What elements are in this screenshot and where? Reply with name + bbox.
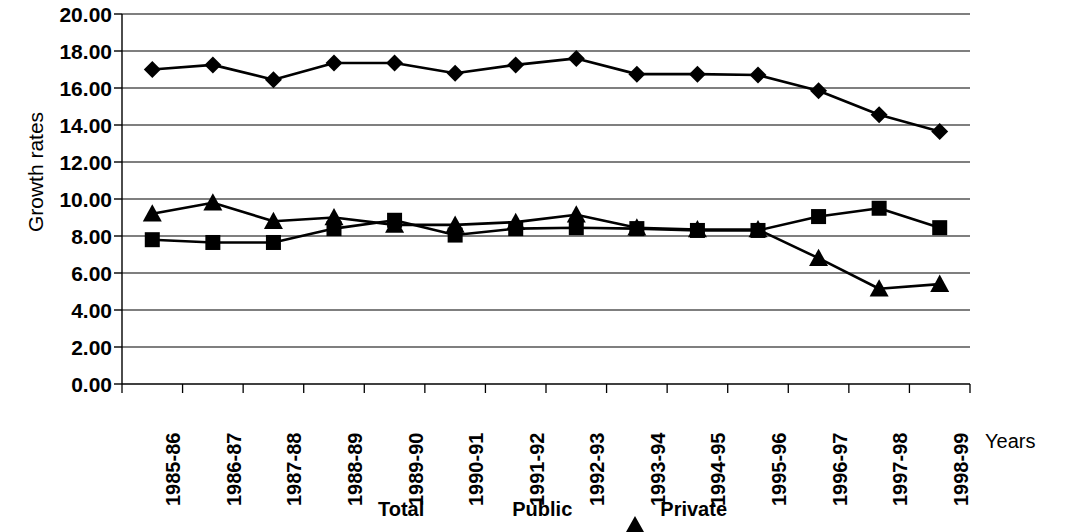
legend-label: Public [512, 498, 572, 521]
legend-entry-private[interactable]: Private [624, 498, 727, 521]
triangle-data-point [809, 249, 828, 266]
legend-label: Total [378, 498, 424, 521]
x-tick-label-text: 1989-90 [405, 396, 428, 506]
x-tick-label: 1993-94 [647, 396, 670, 506]
y-tick-label: 2.00 [0, 337, 112, 358]
legend-label: Private [660, 498, 727, 521]
x-tick-label: 1991-92 [526, 396, 549, 506]
diamond-data-point [689, 66, 706, 83]
y-tick-label: 0.00 [0, 374, 112, 395]
diamond-data-point [507, 56, 524, 73]
y-axis-tick-labels: 20.0018.0016.0014.0012.0010.008.006.004.… [0, 0, 112, 400]
square-marker-icon [476, 499, 498, 521]
y-tick-label: 18.00 [0, 41, 112, 62]
x-tick-label: 1987-88 [283, 396, 306, 506]
diamond-data-point [265, 71, 282, 88]
x-tick-label: 1990-91 [465, 396, 488, 506]
diamond-data-point [144, 61, 161, 78]
triangle-marker-icon [624, 499, 646, 521]
series-private [143, 193, 949, 296]
x-tick-label-text: 1992-93 [586, 396, 609, 506]
x-tick-label-text: 1994-95 [707, 396, 730, 506]
x-axis-title: Years [985, 430, 1035, 453]
y-tick-label: 20.00 [0, 4, 112, 25]
plot-svg [122, 14, 970, 384]
x-tick-label: 1997-98 [889, 396, 912, 506]
diamond-data-point [204, 56, 221, 73]
x-tick-label-text: 1988-89 [344, 396, 367, 506]
x-axis-tick-labels: 1985-861986-871987-881988-891989-901990-… [122, 384, 970, 504]
x-tick-label: 1996-97 [829, 396, 852, 506]
triangle-glyph [626, 499, 644, 532]
x-tick-label-text: 1996-97 [829, 396, 852, 506]
diamond-data-point [628, 66, 645, 83]
x-tick-label-text: 1991-92 [526, 396, 549, 506]
x-tick-label-text: 1995-96 [768, 396, 791, 506]
diamond-data-point [810, 82, 827, 99]
legend-entry-total[interactable]: Total [342, 498, 424, 521]
diamond-data-point [871, 106, 888, 123]
y-tick-label: 14.00 [0, 115, 112, 136]
x-tick-label: 1985-86 [162, 396, 185, 506]
x-tick-label-text: 1998-99 [950, 396, 973, 506]
x-tick-label: 1995-96 [768, 396, 791, 506]
square-data-point [811, 209, 826, 224]
x-tick-label-text: 1993-94 [647, 396, 670, 506]
x-tick-label: 1986-87 [223, 396, 246, 506]
diamond-marker-icon [342, 499, 364, 521]
triangle-data-point [930, 275, 949, 292]
triangle-data-point [203, 193, 222, 210]
x-tick-label: 1992-93 [586, 396, 609, 506]
y-tick-label: 10.00 [0, 189, 112, 210]
square-data-point [266, 235, 281, 250]
y-tick-label: 16.00 [0, 78, 112, 99]
y-tick-label: 6.00 [0, 263, 112, 284]
x-tick-label: 1989-90 [405, 396, 428, 506]
x-tick-label: 1988-89 [344, 396, 367, 506]
y-tick-label: 12.00 [0, 152, 112, 173]
diamond-data-point [447, 65, 464, 82]
legend-entry-public[interactable]: Public [476, 498, 572, 521]
square-data-point [145, 232, 160, 247]
series-total [144, 50, 948, 140]
chart-page: Growth rates 20.0018.0016.0014.0012.0010… [0, 0, 1069, 532]
x-tick-label-text: 1986-87 [223, 396, 246, 506]
series-public [145, 201, 947, 250]
triangle-data-point [567, 205, 586, 222]
diamond-data-point [326, 55, 343, 72]
square-data-point [205, 235, 220, 250]
y-tick-label: 4.00 [0, 300, 112, 321]
x-tick-label: 1994-95 [707, 396, 730, 506]
plot-area [122, 14, 970, 384]
x-tick-label-text: 1985-86 [162, 396, 185, 506]
x-tick-label-text: 1990-91 [465, 396, 488, 506]
diamond-data-point [750, 67, 767, 84]
diamond-data-point [386, 55, 403, 72]
diamond-data-point [568, 50, 585, 67]
chart-legend: TotalPublicPrivate [0, 498, 1069, 521]
x-tick-label-text: 1987-88 [283, 396, 306, 506]
y-tick-label: 8.00 [0, 226, 112, 247]
x-tick-label: 1998-99 [950, 396, 973, 506]
square-data-point [872, 201, 887, 216]
x-tick-label-text: 1997-98 [889, 396, 912, 506]
square-data-point [932, 220, 947, 235]
